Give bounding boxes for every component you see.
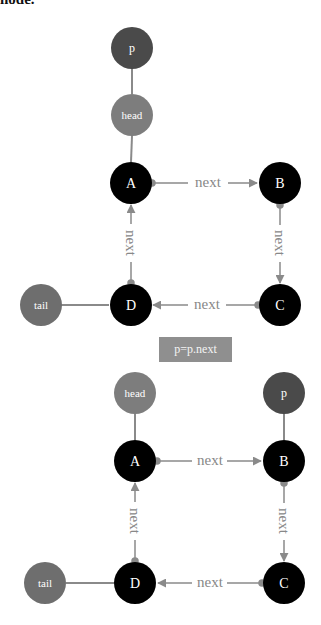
node-head: head (111, 94, 153, 136)
svg-text:head: head (122, 109, 143, 121)
node-tail: tail (24, 562, 66, 604)
operation-label: p=p.next (159, 337, 232, 362)
diagram-after: next next next next head p (24, 372, 305, 604)
linked-list-diagrams: next next next next p head (0, 0, 321, 625)
svg-text:B: B (279, 454, 288, 469)
edge-label: next (276, 508, 292, 535)
svg-text:A: A (126, 176, 137, 191)
node-d: D (110, 284, 152, 326)
edge-label: next (197, 574, 224, 590)
edge-label: next (272, 230, 288, 257)
svg-text:tail: tail (34, 299, 48, 311)
svg-text:p: p (281, 386, 287, 400)
node-c: C (259, 284, 301, 326)
edge-label: next (195, 174, 222, 190)
svg-text:D: D (130, 576, 140, 591)
node-c: C (263, 562, 305, 604)
diagram-before: next next next next p head (20, 27, 301, 326)
svg-text:C: C (275, 298, 284, 313)
node-a: A (110, 162, 152, 204)
svg-text:B: B (275, 176, 284, 191)
node-b: B (259, 162, 301, 204)
edge-label: next (123, 230, 139, 257)
edge-b-c: next (276, 483, 292, 561)
edge-b-c: next (272, 205, 288, 283)
edge-label: next (197, 452, 224, 468)
svg-text:D: D (126, 298, 136, 313)
node-p: p (263, 372, 305, 414)
node-a: A (114, 440, 156, 482)
edge-c-d: next (158, 574, 262, 590)
svg-text:C: C (279, 576, 288, 591)
edge-d-a: next (127, 483, 143, 561)
edge-a-b: next (157, 452, 261, 468)
node-b: B (263, 440, 305, 482)
edge-c-d: next (153, 296, 258, 312)
svg-text:p: p (129, 41, 135, 55)
node-d: D (114, 562, 156, 604)
edge-label: next (127, 508, 143, 535)
svg-text:A: A (130, 454, 141, 469)
head-a-link (131, 136, 132, 162)
svg-text:tail: tail (38, 577, 52, 589)
edge-label: next (194, 296, 221, 312)
svg-text:head: head (125, 387, 146, 399)
node-head: head (114, 372, 156, 414)
edge-d-a: next (123, 205, 139, 283)
node-p: p (111, 27, 153, 69)
node-tail: tail (20, 284, 62, 326)
edge-a-b: next (152, 174, 257, 190)
